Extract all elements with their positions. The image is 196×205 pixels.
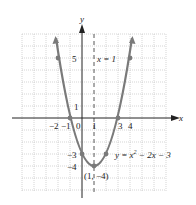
y-tick-5: 5 xyxy=(72,54,77,64)
x-tick-1: 1 xyxy=(92,121,97,131)
y-tick-1: 1 xyxy=(74,102,79,112)
y-axis-label: y xyxy=(79,14,84,24)
axis-of-symmetry-label: x = 1 xyxy=(96,54,116,64)
equation-label: y = x2 − 2x − 3 xyxy=(114,149,171,160)
y-tick-neg4: −4 xyxy=(67,162,77,172)
y-tick-neg3: −3 xyxy=(67,150,77,160)
y-axis-arrow-icon xyxy=(79,24,85,33)
parabola-graph: y x 5 1 −3 −4 −2 −1 0 1 3 4 x = 1 (1, −4… xyxy=(0,0,196,205)
x-axis-label: x xyxy=(178,113,183,123)
x-tick-3: 3 xyxy=(118,121,123,131)
x-tick-4: 4 xyxy=(128,121,133,131)
x-tick-neg1: −1 xyxy=(61,121,71,131)
x-tick-0: 0 xyxy=(76,121,81,131)
x-tick-neg2: −2 xyxy=(49,121,59,131)
vertex-label: (1, −4) xyxy=(84,171,109,181)
